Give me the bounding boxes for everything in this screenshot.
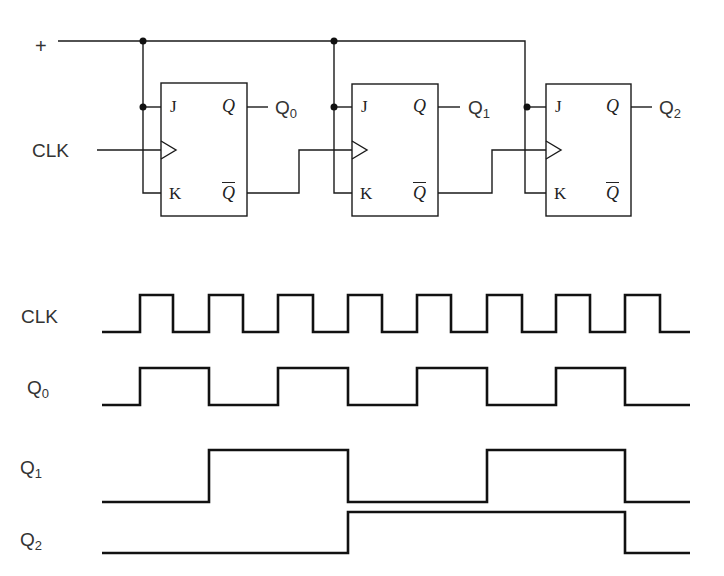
ff0-qbar-pin: Q [222, 184, 235, 202]
ff0-j-pin: J [170, 98, 177, 115]
ff0-q-pin: Q [222, 97, 235, 115]
ff1-k-pin: K [360, 185, 372, 202]
junction-dot [524, 104, 531, 111]
q2-output-label: Q2 [659, 98, 681, 120]
q0-output-label: Q0 [275, 98, 297, 120]
ff2-k-pin: K [554, 185, 566, 202]
ff2-q-pin: Q [606, 97, 619, 115]
ff1-qbar-pin: Q [413, 184, 426, 202]
ff1-jk-wire [334, 41, 352, 193]
ff0-jk-wire [143, 41, 161, 193]
ff1-q-pin: Q [413, 97, 426, 115]
ff2-qbar-pin: Q [606, 184, 619, 202]
ff1-qbar-to-ff2-clk [438, 150, 546, 193]
ff2-j-pin: J [555, 98, 562, 115]
q1-output-label: Q1 [468, 98, 490, 120]
timing-label-clk: CLK [21, 307, 58, 329]
ff1-j-pin: J [361, 98, 368, 115]
junction-dot [331, 38, 338, 45]
junction-dot [331, 104, 338, 111]
timing-label-q0: Q0 [27, 378, 49, 400]
timing-label-q2: Q2 [20, 530, 42, 552]
q2-waveform [102, 512, 690, 553]
timing-label-q1: Q1 [20, 458, 42, 480]
q1-waveform [102, 450, 690, 502]
circuit-schematic [0, 0, 724, 576]
clk-waveform [102, 295, 690, 332]
junction-dot [140, 104, 147, 111]
q0-waveform [102, 368, 690, 405]
clock-input-label: CLK [32, 141, 69, 160]
supply-label: + [35, 36, 47, 56]
ff0-qbar-to-ff1-clk [247, 150, 352, 193]
jk-ripple-counter-diagram: + CLK J K Q Q Q0 J K Q Q Q1 J K Q Q Q2 C… [0, 0, 724, 576]
ff0-k-pin: K [169, 185, 181, 202]
junction-dot [140, 38, 147, 45]
